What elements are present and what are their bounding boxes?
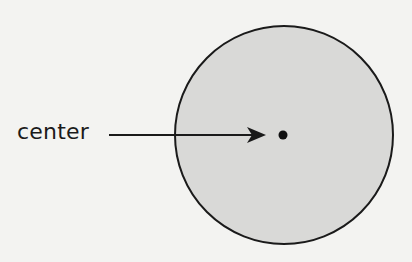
circle-diagram [0,0,412,262]
center-point [279,131,288,140]
